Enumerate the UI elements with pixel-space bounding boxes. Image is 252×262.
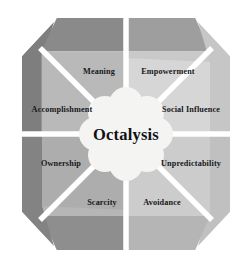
label-meaning: Meaning <box>83 67 116 76</box>
segment-meaning-rim <box>42 18 126 51</box>
octalysis-diagram: Empowerment Social Influence Unpredictab… <box>0 0 252 262</box>
label-accomplishment: Accomplishment <box>32 105 93 114</box>
label-social-influence: Social Influence <box>162 105 220 114</box>
segment-empowerment-rim <box>126 18 210 51</box>
label-empowerment: Empowerment <box>141 67 195 76</box>
octalysis-octagon-graphic: Empowerment Social Influence Unpredictab… <box>0 0 252 262</box>
label-scarcity: Scarcity <box>87 198 117 207</box>
segment-avoidance-rim <box>126 216 210 250</box>
label-avoidance: Avoidance <box>143 198 181 207</box>
label-ownership: Ownership <box>41 159 81 168</box>
center-title: Octalysis <box>93 125 159 144</box>
segment-scarcity-rim <box>42 216 126 250</box>
label-unpredictability: Unpredictability <box>161 159 222 168</box>
